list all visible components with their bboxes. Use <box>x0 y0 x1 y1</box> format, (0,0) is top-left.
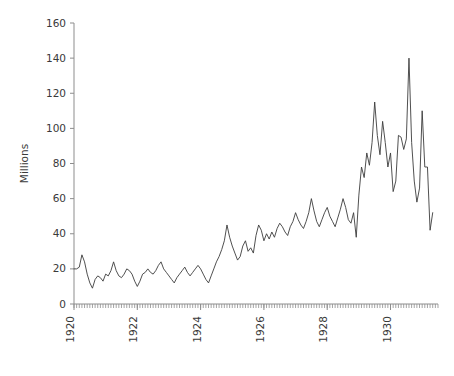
x-tick-label: 1928 <box>317 316 329 343</box>
y-tick-label: 20 <box>53 262 66 274</box>
x-tick-label: 1924 <box>191 316 203 343</box>
y-tick-label: 40 <box>53 227 66 239</box>
y-tick-label: 160 <box>46 17 66 29</box>
y-tick-label: 0 <box>59 298 66 310</box>
y-tick-label: 100 <box>46 122 66 134</box>
x-tick-label: 1926 <box>254 316 266 343</box>
x-tick-label: 1930 <box>381 316 393 343</box>
x-tick-label: 1920 <box>64 316 76 343</box>
x-tick-label: 1922 <box>127 316 139 343</box>
y-tick-label: 60 <box>53 192 66 204</box>
chart-container: 020406080100120140160 192019221924192619… <box>0 0 454 376</box>
y-tick-label: 120 <box>46 87 66 99</box>
line-chart: 020406080100120140160 192019221924192619… <box>0 0 454 376</box>
y-tick-label: 80 <box>53 157 66 169</box>
y-tick-label: 140 <box>46 52 66 64</box>
y-axis-title: Millions <box>18 144 30 183</box>
y-axis-title-label: Millions <box>18 144 30 183</box>
